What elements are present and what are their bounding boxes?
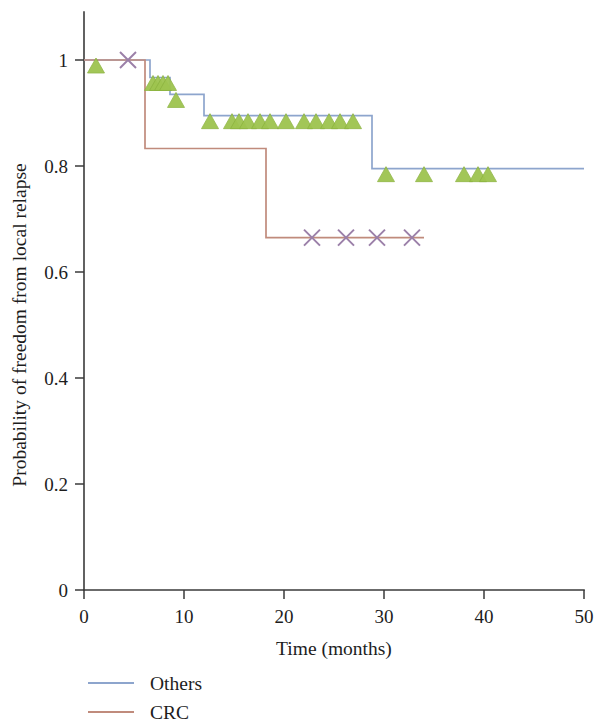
x-tick-label: 10: [175, 606, 194, 627]
y-tick-label: 0.6: [44, 262, 68, 283]
legend-group: OthersCRC: [88, 673, 202, 723]
x-tick-label: 0: [79, 606, 89, 627]
y-axis-title: Probability of freedom from local relaps…: [9, 163, 30, 486]
axis-labels-group: 00.20.40.60.8101020304050Time (months)Pr…: [9, 50, 594, 660]
x-tick-label: 50: [575, 606, 594, 627]
y-tick-label: 0.4: [44, 368, 68, 389]
legend-label-crc: CRC: [150, 702, 189, 723]
x-tick-label: 20: [275, 606, 294, 627]
km-curve-others: [84, 60, 584, 169]
x-tick-label: 40: [475, 606, 494, 627]
y-tick-label: 0: [59, 580, 69, 601]
y-tick-label: 0.8: [44, 156, 68, 177]
x-tick-label: 30: [375, 606, 394, 627]
x-axis-title: Time (months): [276, 638, 392, 660]
kaplan-meier-figure: 00.20.40.60.8101020304050Time (months)Pr…: [0, 0, 599, 724]
y-tick-label: 0.2: [44, 474, 68, 495]
legend-label-others: Others: [150, 673, 202, 694]
axis-group: [75, 12, 584, 599]
survival-plot-svg: 00.20.40.60.8101020304050Time (months)Pr…: [0, 0, 599, 724]
y-tick-label: 1: [59, 50, 69, 71]
km-curve-crc: [84, 60, 424, 238]
